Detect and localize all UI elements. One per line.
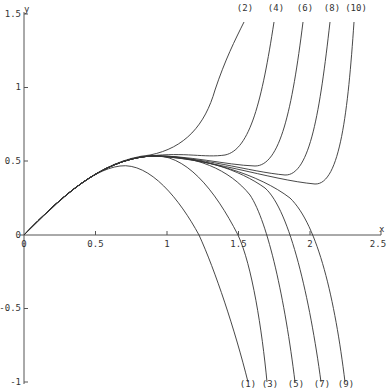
curves — [24, 22, 354, 382]
curve-label-5: (5) — [288, 379, 304, 389]
plot-area: 0 0.5 1 1.5 2 2.5 1.5 1 0.5 0 -0.5 -1 y … — [0, 0, 390, 390]
curve-label-3: (3) — [262, 379, 278, 389]
x-tick-label: 2.5 — [370, 239, 386, 249]
y-ticks — [24, 14, 28, 382]
y-axis-label: y — [24, 4, 30, 14]
x-tick-label: 0.5 — [87, 239, 103, 249]
curve-label-8: (8) — [324, 3, 340, 13]
curve-label-6: (6) — [297, 3, 313, 13]
curve-label-1: (1) — [240, 379, 256, 389]
y-tick-label: -1 — [10, 377, 21, 387]
curve-label-7: (7) — [314, 379, 330, 389]
curve-5 — [24, 156, 295, 382]
x-tick-label: 2 — [307, 239, 312, 249]
x-ticks — [96, 231, 382, 235]
curve-label-2: (2) — [237, 3, 253, 13]
curve-3 — [24, 156, 267, 382]
curve-4 — [24, 22, 274, 235]
x-axis-label: x — [379, 224, 385, 234]
y-tick-label: 0 — [16, 230, 21, 240]
curve-label-9: (9) — [338, 379, 354, 389]
y-tick-label: 1.5 — [5, 9, 21, 19]
curve-label-4: (4) — [268, 3, 284, 13]
y-tick-label: 1 — [16, 82, 21, 92]
x-tick-label: 0 — [21, 239, 26, 249]
curve-7 — [24, 156, 321, 382]
y-tick-label: -0.5 — [0, 303, 21, 313]
curve-10 — [24, 22, 354, 235]
x-tick-label: 1 — [164, 239, 169, 249]
curve-label-10: (10) — [345, 3, 367, 13]
x-tick-label: 1.5 — [230, 239, 246, 249]
curve-6 — [24, 22, 303, 235]
curve-1 — [24, 166, 248, 382]
y-tick-label: 0.5 — [5, 156, 21, 166]
